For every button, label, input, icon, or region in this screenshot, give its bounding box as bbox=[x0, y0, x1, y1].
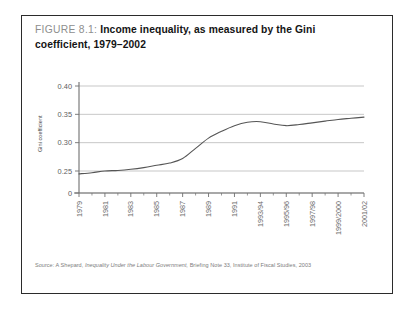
x-axis-tick-label: 1997/98 bbox=[308, 201, 317, 227]
y-axis-tick-label: 0.25 bbox=[58, 167, 72, 176]
source-work-title: Inequality Under the Labour Government, bbox=[85, 262, 188, 268]
x-axis-tick-label: 2001/02 bbox=[360, 201, 369, 227]
figure-border-box: FIGURE 8.1: Income inequality, as measur… bbox=[21, 15, 393, 294]
source-note: Source: A Shepard, Inequality Under the … bbox=[35, 261, 383, 269]
y-axis-tick-label: 0 bbox=[68, 189, 72, 198]
x-axis-tick-label: 1995/96 bbox=[282, 201, 291, 227]
y-axis-tick-label: 0.35 bbox=[58, 110, 72, 119]
line-chart: 00.250.300.350.40Gini coefficient1979198… bbox=[22, 16, 394, 295]
source-rest: Briefing Note 33, Institute of Fiscal St… bbox=[190, 262, 311, 268]
x-axis-tick-label: 1985 bbox=[152, 201, 161, 217]
source-author: A Shepard, bbox=[56, 262, 84, 268]
x-axis-tick-label: 1983 bbox=[126, 201, 135, 217]
x-axis-tick-label: 1979 bbox=[75, 201, 84, 217]
source-prefix: Source: bbox=[35, 262, 54, 268]
x-axis-tick-label: 1987 bbox=[178, 201, 187, 217]
x-axis-tick-label: 1999/2000 bbox=[334, 201, 343, 235]
x-axis-tick-label: 1993/94 bbox=[256, 201, 265, 227]
y-axis-title: Gini coefficient bbox=[37, 115, 43, 152]
gini-coefficient-line bbox=[79, 117, 364, 174]
chart-area: 00.250.300.350.40Gini coefficient1979198… bbox=[22, 16, 394, 295]
x-axis-tick-label: 1991 bbox=[230, 201, 239, 217]
figure-root: FIGURE 8.1: Income inequality, as measur… bbox=[0, 0, 416, 314]
x-axis-tick-label: 1981 bbox=[101, 201, 110, 217]
x-axis-tick-label: 1989 bbox=[204, 201, 213, 217]
y-axis-tick-label: 0.40 bbox=[58, 82, 72, 91]
y-axis-tick-label: 0.30 bbox=[58, 138, 72, 147]
